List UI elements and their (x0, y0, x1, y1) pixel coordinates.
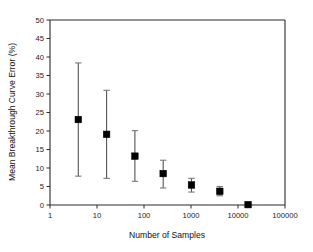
data-marker (132, 153, 139, 160)
data-marker (188, 182, 195, 189)
data-marker (245, 201, 252, 208)
x-tick-label: 1000 (183, 211, 200, 220)
chart-figure: 05101520253035404550 1101001000100001000… (0, 0, 313, 252)
y-axis-title: Mean Breakthrough Curve Error (%) (7, 43, 17, 181)
x-tick-label: 10000 (227, 211, 248, 220)
x-tick-label: 1 (48, 211, 52, 220)
data-marker (216, 188, 223, 195)
y-tick-label: 50 (36, 16, 44, 25)
data-marker (75, 116, 82, 123)
x-tick-label: 100 (138, 211, 151, 220)
y-tick-label: 10 (36, 164, 44, 173)
y-tick-label: 20 (36, 127, 44, 136)
y-tick-label: 5 (40, 182, 44, 191)
y-tick-label: 40 (36, 53, 44, 62)
y-tick-label: 25 (36, 108, 44, 117)
y-tick-label: 30 (36, 90, 44, 99)
x-tick-label: 100000 (272, 211, 297, 220)
data-point-group (216, 187, 223, 196)
data-marker (160, 170, 167, 177)
x-tick-label: 10 (93, 211, 101, 220)
y-tick-label: 35 (36, 71, 44, 80)
y-tick-label: 0 (40, 201, 44, 210)
scatter-plot-with-error-bars: 05101520253035404550 1101001000100001000… (0, 0, 313, 252)
data-point-group (245, 201, 252, 208)
data-marker (103, 131, 110, 138)
y-tick-label: 45 (36, 34, 44, 43)
y-tick-label: 15 (36, 145, 44, 154)
x-axis-title: Number of Samples (129, 230, 205, 240)
